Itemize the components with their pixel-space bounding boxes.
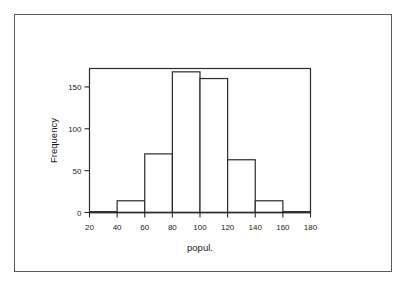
x-tick-label: 140 <box>249 223 263 232</box>
histogram-figure: 05010015020406080100120140160180popul.Fr… <box>0 0 400 286</box>
x-tick-label: 80 <box>168 223 177 232</box>
x-tick-label: 20 <box>85 223 94 232</box>
x-tick-label: 180 <box>304 223 318 232</box>
y-axis-title: Frequency <box>48 118 59 163</box>
y-tick-label: 0 <box>77 209 82 218</box>
x-axis-title: popul. <box>187 242 213 253</box>
histogram-bar <box>228 160 256 213</box>
histogram-bar <box>172 72 200 213</box>
x-tick-label: 40 <box>113 223 122 232</box>
x-tick-label: 60 <box>140 223 149 232</box>
y-tick-label: 50 <box>73 167 82 176</box>
histogram-bar <box>200 79 228 213</box>
y-tick-label: 150 <box>68 83 82 92</box>
histogram-bar <box>145 154 173 213</box>
y-tick-label: 100 <box>68 125 82 134</box>
histogram-bar <box>255 201 283 213</box>
x-tick-label: 160 <box>276 223 290 232</box>
histogram-bar <box>117 201 145 213</box>
x-tick-label: 100 <box>193 223 207 232</box>
histogram-plot: 05010015020406080100120140160180popul.Fr… <box>0 0 400 286</box>
x-tick-label: 120 <box>221 223 235 232</box>
